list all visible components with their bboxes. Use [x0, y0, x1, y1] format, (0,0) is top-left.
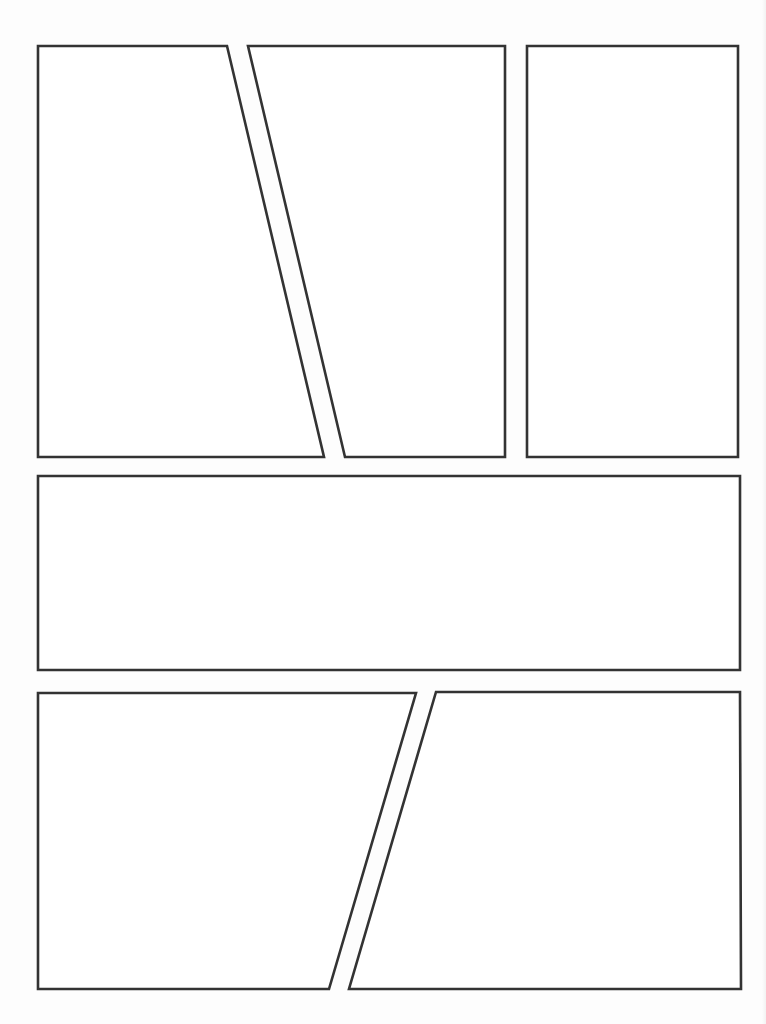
panel-4 — [38, 476, 740, 670]
panel-layout — [0, 0, 766, 1024]
comic-page — [0, 0, 766, 1024]
panel-3 — [527, 46, 738, 457]
panel-6 — [349, 692, 741, 989]
panel-5 — [38, 693, 416, 989]
